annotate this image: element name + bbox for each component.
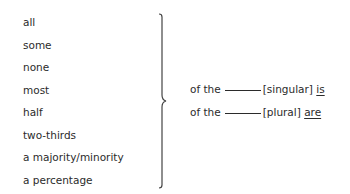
plural-rule: of the[plural] are — [190, 101, 325, 124]
quantifier-item: a percentage — [23, 169, 124, 192]
curly-brace-icon — [158, 13, 170, 189]
quantifier-item: a majority/minority — [23, 146, 124, 169]
agreement-rules: of the[singular] is of the[plural] are — [190, 78, 325, 123]
blank-line — [225, 113, 261, 114]
quantifier-item: half — [23, 101, 124, 124]
quantifier-list: all some none most half two-thirds a maj… — [23, 11, 124, 191]
quantifier-item: all — [23, 11, 124, 34]
blank-line — [225, 90, 261, 91]
rule-verb: is — [316, 83, 324, 95]
rule-type: [singular] — [263, 83, 313, 95]
rule-prefix: of the — [190, 83, 221, 95]
rule-prefix: of the — [190, 106, 221, 118]
quantifier-item: most — [23, 79, 124, 102]
rule-verb: are — [304, 106, 321, 118]
quantifier-item: two-thirds — [23, 124, 124, 147]
quantifier-item: some — [23, 34, 124, 57]
rule-type: [plural] — [263, 106, 301, 118]
quantifier-item: none — [23, 56, 124, 79]
singular-rule: of the[singular] is — [190, 78, 325, 101]
